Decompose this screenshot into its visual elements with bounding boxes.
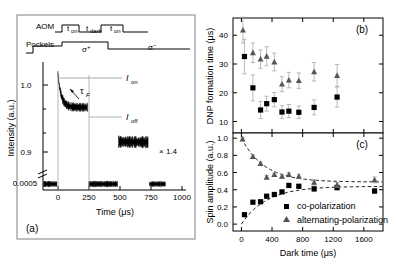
xtick-label: 800 <box>296 235 310 244</box>
legend-label-alt: alternating-polarization <box>297 215 388 225</box>
data-point-square <box>250 85 255 90</box>
data-point-square <box>272 97 277 102</box>
ytick-label: 0.6 <box>217 169 229 178</box>
data-point-square <box>286 183 291 188</box>
data-point-square <box>296 184 301 189</box>
ytick-label: 30 <box>219 60 228 69</box>
panel-a-label: (a) <box>26 223 38 234</box>
panel-b-label: (b) <box>356 24 368 35</box>
svg-text:F: F <box>86 92 90 98</box>
panel-c-xlabel: Dark time (μs) <box>280 248 337 258</box>
figure-root: AOM t on t dark t on Pockels σ + σ <box>0 0 397 269</box>
data-point-square <box>242 54 247 59</box>
ytick-label: 0.0 <box>217 220 229 229</box>
panel-a-xlabel: Time (μs) <box>96 207 134 217</box>
data-point-square <box>372 188 377 193</box>
data-point-square <box>279 109 284 114</box>
panel-a-xtick-label-500: 500 <box>113 193 127 202</box>
data-point-square <box>296 110 301 115</box>
panel-a-xtick-label-250: 250 <box>82 193 96 202</box>
figure-svg: AOM t on t dark t on Pockels σ + σ <box>0 0 397 269</box>
data-point-square <box>242 212 247 217</box>
data-point-square <box>272 192 277 197</box>
xtick-label: 1200 <box>324 235 342 244</box>
data-point-square <box>258 199 263 204</box>
panel-a-ytick-label-0.9: 0.9 <box>20 148 32 157</box>
panel-b-ylabel: DNP formation time (μs) <box>205 28 215 125</box>
ytick-label: 0.2 <box>217 203 229 212</box>
panel-b-frame <box>233 18 383 133</box>
svg-text:+: + <box>87 44 91 50</box>
svg-text:on: on <box>71 28 78 34</box>
svg-text:on: on <box>131 79 138 85</box>
scale-annotation: × 1.4 <box>159 147 178 156</box>
data-point-square <box>279 189 284 194</box>
aom-row-label: AOM <box>36 22 55 31</box>
panel-a-xtick-label-0: 0 <box>56 193 61 202</box>
panel-c-ylabel: Spin amplitude (a.u.) <box>205 140 215 223</box>
svg-text:τ: τ <box>80 86 84 96</box>
svg-text:on: on <box>114 28 121 34</box>
data-point-square <box>264 101 269 106</box>
panel-a: AOM t on t dark t on Pockels σ + σ <box>6 15 195 239</box>
ytick-label: 20 <box>219 89 228 98</box>
panel-a-xtick-label-750: 750 <box>144 193 158 202</box>
data-point-square <box>250 200 255 205</box>
ytick-label: 0.4 <box>217 186 229 195</box>
ytick-label: 1.0 <box>217 134 229 143</box>
panel-a-ylabel: Intensity (a.u.) <box>6 99 16 156</box>
xtick-label: 0 <box>239 235 244 244</box>
panel-c-label: (c) <box>356 139 368 150</box>
legend-square-icon <box>284 204 289 209</box>
data-point-square <box>286 109 291 114</box>
pockels-row-label: Pockels <box>26 40 54 49</box>
panel-a-ytick-label-1.0: 1.0 <box>20 81 32 90</box>
data-point-square <box>334 94 339 99</box>
svg-text:dark: dark <box>90 28 103 34</box>
data-point-square <box>258 107 263 112</box>
panel-a-xtick-label-1000: 1000 <box>173 193 191 202</box>
svg-text:off: off <box>131 118 138 124</box>
panel-a-baseline-label: 0.0005 <box>13 179 38 188</box>
data-point-square <box>312 105 317 110</box>
xtick-label: 1600 <box>355 235 373 244</box>
data-point-square <box>264 194 269 199</box>
ytick-label: 10 <box>219 118 228 127</box>
legend-label-co: co-polarization <box>297 201 356 211</box>
svg-text:−: − <box>153 42 157 48</box>
xtick-label: 400 <box>265 235 279 244</box>
ytick-label: 0.8 <box>217 151 229 160</box>
data-point-square <box>312 186 317 191</box>
ytick-label: 40 <box>219 31 228 40</box>
trace-segment <box>44 181 57 187</box>
